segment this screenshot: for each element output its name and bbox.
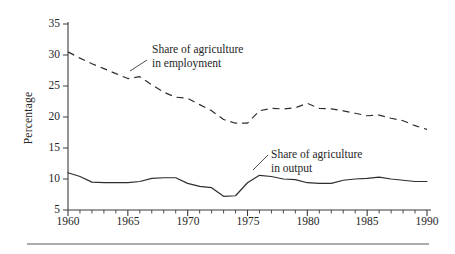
series-line-output (68, 173, 427, 197)
series-line-employment (68, 52, 427, 129)
figure-canvas: Percentage 35 30 25 20 15 10 5 1960 1965… (0, 0, 455, 254)
leader-line-output (253, 155, 268, 170)
x-axis-major-ticks (68, 210, 427, 216)
leader-line-employment (130, 60, 147, 71)
axes (63, 22, 431, 216)
chart-svg (0, 0, 455, 254)
y-axis-ticks (63, 24, 68, 210)
